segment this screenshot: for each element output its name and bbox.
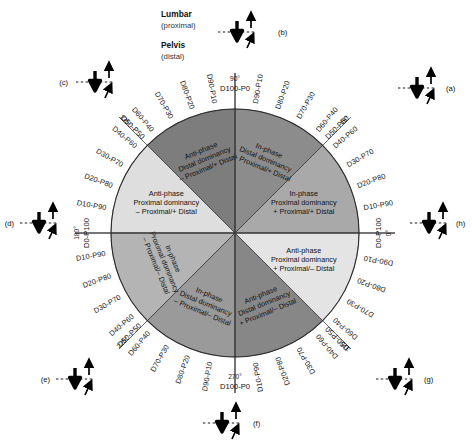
- anatomy-key: Lumbar (proximal) Pelvis (distal): [161, 9, 196, 61]
- octant-oct-0-45-signs: + Proximal/+ Distal: [273, 207, 335, 216]
- tick-label-290: D20-P80: [273, 355, 292, 386]
- tick-label-200: D20-P80: [81, 271, 112, 290]
- tick-label-340: D80-P20: [356, 276, 387, 295]
- pictogram-h: (h): [410, 207, 466, 239]
- octant-oct-0-45-phase: In-phase: [290, 189, 318, 198]
- octant-oct-315-360-phase: Anti-phase: [286, 246, 321, 255]
- pictogram-label-g: (g): [424, 375, 434, 384]
- proximal-name: Lumbar: [161, 9, 192, 19]
- tick-label-110: D80-P20: [178, 79, 197, 110]
- pictogram-label-b: (b): [278, 28, 288, 37]
- octant-oct-135-180-phase: Anti-phase: [149, 189, 184, 198]
- tick-label-80: D90-P10: [251, 73, 265, 104]
- tick-label-20: D20-P80: [356, 171, 387, 190]
- distal-name: Pelvis: [161, 40, 186, 50]
- axis-code-right: D0-P100: [374, 218, 383, 248]
- pictogram-lower-arrow: [105, 87, 110, 98]
- tick-label-210: D30-P70: [92, 292, 122, 315]
- octant-oct-0-45-dominancy: Proximal dominancy: [271, 198, 337, 207]
- axis-code-top: D100-P0: [220, 84, 250, 93]
- tick-label-70: D80-P20: [273, 79, 292, 110]
- tick-label-250: D80-P20: [173, 354, 192, 385]
- pictogram-thick-arrow: [217, 412, 228, 432]
- figure-canvas: In-phaseProximal dominancy+ Proximal/+ D…: [0, 0, 472, 444]
- tick-label-190: D10-P90: [75, 249, 106, 263]
- polar-coupling-diagram: In-phaseProximal dominancy+ Proximal/+ D…: [0, 0, 472, 444]
- pictogram-lower-arrow: [49, 228, 54, 239]
- pictogram-thick-arrow: [34, 212, 45, 232]
- tick-label-300: D30-P70: [294, 346, 317, 376]
- distal-sub: (distal): [161, 52, 185, 61]
- pictogram-a: (a): [398, 72, 456, 104]
- axis-code-bottom: D100-P0: [220, 382, 250, 391]
- octant-oct-135-180-signs: – Proximal/+ Distal: [136, 207, 197, 216]
- pictogram-label-a: (a): [446, 84, 456, 93]
- pictogram-e: (e): [41, 363, 94, 395]
- pictogram-label-f: (f): [253, 419, 261, 428]
- tick-label-280: D10-P90: [251, 362, 265, 393]
- pictogram-label-c: (c): [59, 78, 68, 87]
- pictogram-lower-arrow: [427, 93, 432, 104]
- pictogram-thick-arrow: [232, 21, 243, 41]
- pictogram-thick-arrow: [90, 71, 101, 91]
- tick-label-60: D70-P30: [294, 90, 317, 120]
- axis-code-left: D0-P100: [82, 218, 91, 248]
- octant-oct-135-180-dominancy: Proximal dominancy: [133, 198, 199, 207]
- pictogram-lower-arrow: [439, 228, 444, 239]
- tick-label-30: D30-P70: [345, 146, 375, 169]
- axis-degrees-left: 180°: [73, 226, 80, 240]
- pictogram-label-e: (e): [41, 375, 51, 384]
- pictogram-lower-arrow: [405, 384, 410, 395]
- pictogram-lower-arrow: [232, 428, 237, 439]
- pictogram-c: (c): [59, 66, 114, 98]
- tick-label-170: D10-P90: [76, 198, 107, 212]
- tick-label-100: D90-P10: [205, 73, 219, 104]
- tick-label-260: D90-P10: [200, 361, 214, 392]
- pictogram-label-d: (d): [5, 219, 15, 228]
- pictogram-d: (d): [5, 207, 58, 239]
- tick-label-330: D70-P30: [345, 297, 375, 320]
- tick-label-240: D70-P30: [148, 343, 171, 373]
- tick-label-120: D70-P30: [153, 90, 176, 120]
- pictogram-lower-arrow: [247, 37, 252, 48]
- tick-label-350: D90-P10: [363, 254, 394, 268]
- axis-degrees-bottom: 270°: [228, 373, 242, 380]
- pictogram-thick-arrow: [390, 368, 401, 388]
- pictogram-g: (g): [376, 363, 434, 395]
- pictogram-thick-arrow: [424, 212, 435, 232]
- tick-label-10: D10-P90: [363, 198, 394, 212]
- tick-label-160: D20-P80: [83, 171, 114, 190]
- pictogram-f: (f): [203, 407, 261, 439]
- pictogram-b: (b): [218, 16, 288, 48]
- tick-label-150: D30-P70: [95, 146, 125, 169]
- octant-oct-315-360-dominancy: Proximal dominancy: [271, 255, 337, 264]
- pictogram-thick-arrow: [412, 77, 423, 97]
- proximal-sub: (proximal): [161, 21, 196, 30]
- pictogram-label-h: (h): [456, 219, 466, 228]
- pictogram-thick-arrow: [70, 368, 81, 388]
- axis-degrees-right: 0°: [385, 229, 392, 236]
- pictogram-lower-arrow: [85, 384, 90, 395]
- octant-oct-315-360-signs: + Proximal/– Distal: [273, 264, 334, 273]
- axis-degrees-top: 90°: [230, 75, 240, 82]
